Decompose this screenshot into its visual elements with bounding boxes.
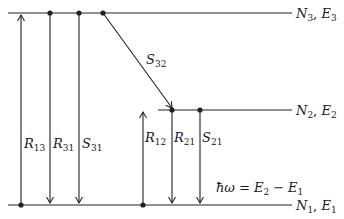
label-level-n3: N3, E3 bbox=[295, 6, 337, 23]
dot-r13-start bbox=[18, 202, 23, 207]
dot-s31-start bbox=[76, 10, 81, 15]
label-r21: R21 bbox=[173, 130, 195, 147]
label-r31: R31 bbox=[52, 136, 74, 153]
label-s32: S32 bbox=[146, 52, 166, 69]
label-level-n2: N2, E2 bbox=[295, 103, 337, 120]
energy-level-diagram: R13 R31 S31 S32 R12 R21 S21 N3, E3 N2, E… bbox=[0, 0, 344, 219]
label-level-n1: N1, E1 bbox=[295, 198, 337, 215]
dot-s21-start bbox=[197, 107, 202, 112]
dot-s32-start bbox=[100, 10, 105, 15]
dot-r31-start bbox=[47, 10, 52, 15]
label-r12: R12 bbox=[144, 130, 166, 147]
dot-r12-start bbox=[140, 202, 145, 207]
label-s21: S21 bbox=[202, 130, 222, 147]
label-r13: R13 bbox=[23, 136, 46, 153]
label-s31: S31 bbox=[82, 136, 102, 153]
photon-energy-equation: ħω=E2−E1 bbox=[216, 180, 303, 197]
dot-r21-start bbox=[169, 107, 174, 112]
